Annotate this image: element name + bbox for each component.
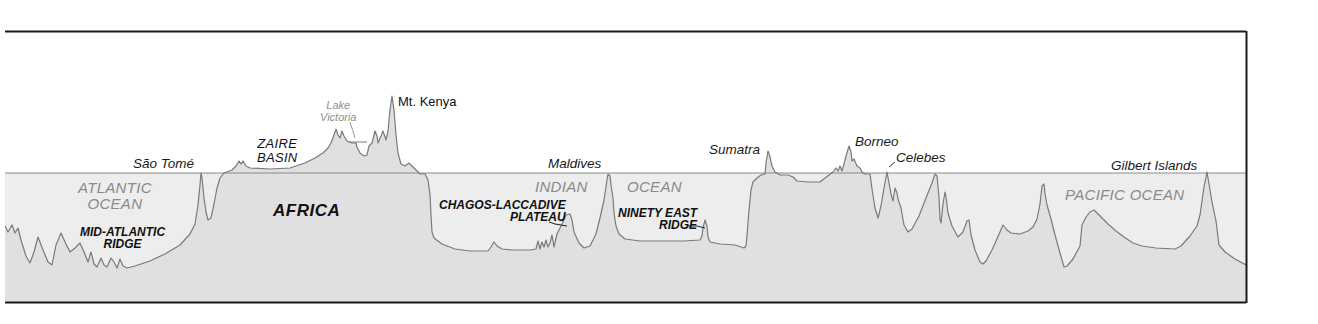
label-lake-victoria: Lake Victoria [320,100,356,123]
label-ninety-east-ridge: NINETY EAST RIDGE [618,207,697,231]
label-atlantic-line2: OCEAN [78,196,152,212]
label-mid-atlantic-ridge: MID-ATLANTIC RIDGE [80,226,165,250]
label-lake-line2: Victoria [320,112,356,124]
label-indian: INDIAN [535,179,588,195]
label-sumatra: Sumatra [709,143,760,157]
label-lake-line1: Lake [320,100,356,112]
topographic-profile-diagram: São Tomé ATLANTIC OCEAN MID-ATLANTIC RID… [0,0,1318,324]
label-zaire-basin: ZAIRE BASIN [257,137,298,164]
label-zaire-line1: ZAIRE [257,137,298,151]
label-celebes: Celebes [896,151,946,165]
label-mid-atlantic-line2: RIDGE [80,238,165,250]
label-ninety-line2: RIDGE [618,219,697,231]
label-pacific-ocean: PACIFIC OCEAN [1065,187,1184,203]
label-gilbert-islands: Gilbert Islands [1111,159,1197,173]
label-sao-tome: São Tomé [133,157,194,171]
label-maldives: Maldives [548,157,601,171]
label-atlantic-line1: ATLANTIC [78,180,152,196]
lake-victoria-leader [350,122,355,138]
label-ocean: OCEAN [627,179,682,195]
label-atlantic-ocean: ATLANTIC OCEAN [78,180,152,212]
label-mt-kenya: Mt. Kenya [398,95,457,108]
celebes-leader [889,162,895,167]
label-chagos-line2: PLATEAU [439,211,566,223]
label-chagos-laccadive-plateau: CHAGOS-LACCADIVE PLATEAU [439,199,566,223]
label-africa: AFRICA [273,202,340,219]
label-zaire-line2: BASIN [257,151,298,165]
label-borneo: Borneo [855,135,899,149]
